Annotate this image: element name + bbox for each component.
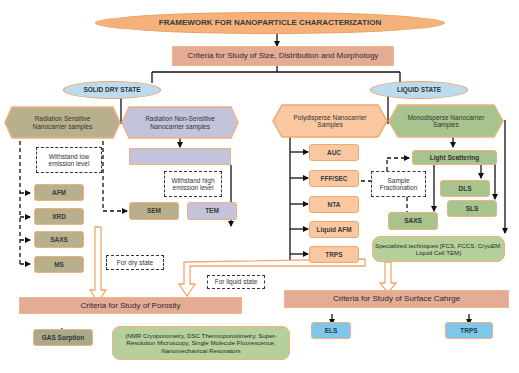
- technique-els: ELS: [311, 322, 351, 339]
- technique-nta: NTA: [309, 196, 359, 213]
- monodisperse-samples: Monodisperse Nanocarrier Samples: [388, 104, 504, 138]
- technique-liquid-afm: Liquid AFM: [309, 221, 359, 238]
- note-for-liquid-state: For liquid state: [207, 275, 265, 289]
- technique-sem: SEM: [129, 202, 179, 220]
- liquid-state: LIQUID STATE: [370, 81, 468, 99]
- solid-dry-state: SOLID DRY STATE: [63, 81, 161, 99]
- monodisperse-label: Monodisperse Nanocarrier Samples: [406, 114, 486, 129]
- note-for-dry-state: For dry state: [106, 255, 164, 270]
- radiation-non-sensitive-label: Radiation Non-Sensitive Nanocarrier samp…: [140, 115, 220, 130]
- note-withstand-high: Withstand high emission level: [164, 171, 222, 197]
- framework-title: FRAMEWORK FOR NANOPARTICLE CHARACTERIZAT…: [95, 12, 445, 34]
- polydisperse-samples: Polydisperse Nanocarrier Samples: [272, 104, 388, 138]
- criteria-surface-charge: Criteria for Study of Surface Cahrge: [284, 290, 509, 308]
- technique-trps-surface: TRPS: [445, 322, 493, 339]
- polydisperse-label: Polydisperse Nanocarrier Samples: [290, 114, 370, 129]
- non-sensitive-sub-box: [129, 148, 231, 165]
- technique-tem: TEM: [187, 202, 237, 220]
- gas-sorption: GAS Sorption: [33, 329, 93, 346]
- technique-saxs-liquid: SAXS: [388, 212, 438, 230]
- technique-trps-liquid: TRPS: [309, 246, 359, 263]
- technique-xrd: XRD: [34, 208, 84, 225]
- technique-fff-sec: FFF/SEC: [309, 170, 359, 187]
- porosity-other-techniques: (NMR Cryoporometry, DSC Thermoporosimetr…: [112, 326, 290, 360]
- criteria-size-distribution-morphology: Criteria for Study of Size, Distribution…: [172, 46, 394, 66]
- note-sample-fractionation: Sample Fractionation: [371, 171, 426, 197]
- specialized-techniques: Specialized techniques [FCS, FCCS, CryuE…: [372, 236, 505, 262]
- light-scattering: Light Scattering: [412, 150, 497, 165]
- technique-auc: AUC: [309, 144, 359, 161]
- radiation-sensitive-label: Radiation Sensitive Nanocarrier samples: [23, 115, 103, 130]
- radiation-sensitive-samples: Radiation Sensitive Nanocarrier samples: [4, 106, 121, 139]
- technique-afm: AFM: [34, 184, 84, 201]
- technique-ms: MS: [34, 256, 84, 273]
- technique-saxs-solid: SAXS: [34, 231, 84, 248]
- technique-sls: SLS: [447, 200, 497, 217]
- radiation-non-sensitive-samples: Radiation Non-Sensitive Nanocarrier samp…: [121, 106, 239, 139]
- technique-dls: DLS: [440, 180, 490, 197]
- note-withstand-low: Withstand low emission level: [36, 147, 102, 173]
- criteria-porosity: Criteria for Study of Porosity: [19, 297, 242, 314]
